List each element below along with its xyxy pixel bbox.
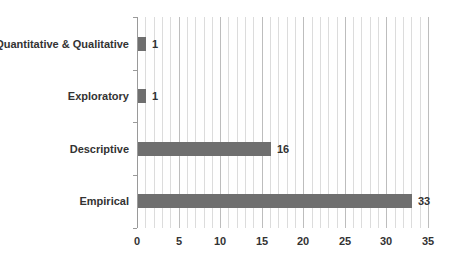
horizontal-bar-chart: Quantitative & Qualitative Exploratory D… (0, 0, 451, 260)
x-tick-label: 20 (288, 235, 318, 247)
bar-value-label: 33 (418, 194, 430, 208)
x-tick-label: 35 (413, 235, 443, 247)
x-tick-label: 30 (371, 235, 401, 247)
x-tick-label: 5 (164, 235, 194, 247)
x-tick-label: 10 (205, 235, 235, 247)
bar (138, 142, 271, 156)
bar (138, 194, 412, 208)
category-label: Empirical (79, 194, 129, 208)
category-label: Quantitative & Qualitative (0, 37, 129, 51)
bar-value-label: 1 (152, 37, 158, 51)
y-axis-tick (133, 228, 137, 229)
category-label: Exploratory (68, 89, 129, 103)
x-tick-label: 25 (330, 235, 360, 247)
bar (138, 89, 146, 103)
x-tick-label: 0 (122, 235, 152, 247)
bar-value-label: 16 (277, 142, 289, 156)
bar (138, 37, 146, 51)
bar-value-label: 1 (152, 89, 158, 103)
x-tick-label: 15 (247, 235, 277, 247)
category-label: Descriptive (70, 142, 129, 156)
